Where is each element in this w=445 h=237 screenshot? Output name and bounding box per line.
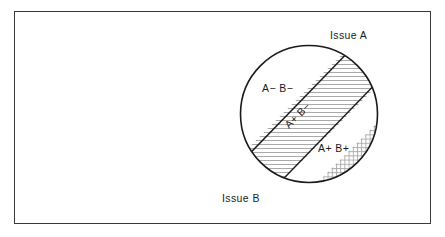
issue-b-label: Issue B (222, 192, 260, 204)
issue-space-diagram: A− B− A+ B− A+ B+ Issue A Issue B (0, 0, 445, 237)
screenshot-root: A− B− A+ B− A+ B+ Issue A Issue B (0, 0, 445, 237)
region-label-a-plus-b-plus: A+ B+ (318, 142, 349, 154)
region-label-a-minus-b-minus: A− B− (262, 82, 293, 94)
issue-a-label: Issue A (330, 29, 367, 41)
